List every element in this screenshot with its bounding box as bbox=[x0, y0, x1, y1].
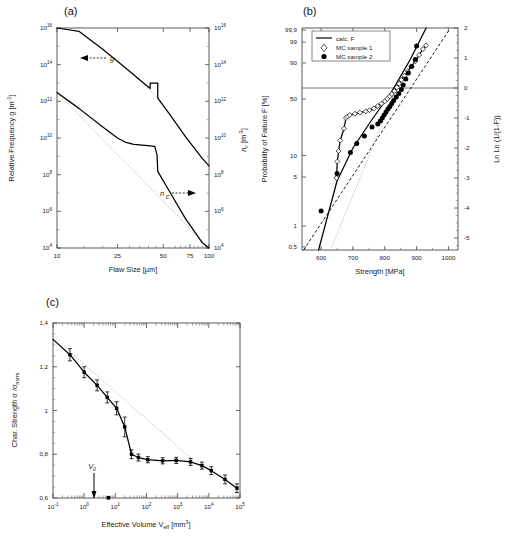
svg-text:101: 101 bbox=[111, 502, 121, 510]
svg-text:-5: -5 bbox=[464, 234, 470, 241]
svg-text:106: 106 bbox=[43, 207, 53, 215]
panel-a: (a) 1016101410121010108106104 1016101410… bbox=[0, 0, 256, 278]
svg-text:99: 99 bbox=[290, 38, 297, 45]
svg-text:90: 90 bbox=[290, 59, 297, 66]
svg-text:1: 1 bbox=[45, 407, 49, 414]
panel-b-ylabel-left: Probability of Failure F [%] bbox=[260, 96, 269, 183]
svg-text:25: 25 bbox=[114, 252, 121, 259]
panel-a-curves bbox=[57, 28, 209, 248]
panel-a-label: (a) bbox=[64, 5, 77, 17]
svg-text:104: 104 bbox=[204, 502, 214, 510]
svg-text:1: 1 bbox=[294, 222, 298, 229]
panel-b-legend: calc. F MC sample 1 MC sample 2 bbox=[312, 31, 390, 61]
svg-text:700: 700 bbox=[348, 254, 359, 261]
panel-c-xlabel: Effective Volume Veff [mm3] bbox=[102, 519, 191, 530]
svg-text:1,2: 1,2 bbox=[39, 363, 48, 370]
svg-text:0: 0 bbox=[464, 84, 468, 91]
svg-text:99,9: 99,9 bbox=[285, 26, 298, 33]
panel-a-annotation-g: g bbox=[80, 54, 115, 63]
svg-text:75: 75 bbox=[187, 252, 194, 259]
svg-text:calc. F: calc. F bbox=[336, 35, 354, 42]
svg-text:1012: 1012 bbox=[214, 97, 226, 105]
svg-text:50: 50 bbox=[290, 95, 297, 102]
svg-text:900: 900 bbox=[411, 254, 422, 261]
svg-text:102: 102 bbox=[142, 502, 152, 510]
panel-c-curves bbox=[53, 339, 239, 499]
panel-c: (c) 1,41,210,80,6 10-1100101102103104105… bbox=[0, 278, 300, 546]
panel-c-annotation-v0: V0 bbox=[88, 462, 96, 499]
svg-text:1014: 1014 bbox=[40, 60, 52, 68]
svg-text:1010: 1010 bbox=[214, 133, 226, 141]
svg-text:103: 103 bbox=[173, 502, 183, 510]
svg-text:10: 10 bbox=[290, 152, 297, 159]
panel-c-label: (c) bbox=[46, 296, 59, 308]
panel-b-left-axis: 99,999905010510,5 bbox=[285, 26, 306, 250]
svg-text:-4: -4 bbox=[464, 204, 470, 211]
panel-a-right-axis: 1016101410121010108106104 bbox=[205, 23, 226, 251]
svg-text:0,6: 0,6 bbox=[39, 494, 48, 501]
panel-c-plot: 1,41,210,80,6 10-1100101102103104105 V0 … bbox=[0, 278, 300, 546]
svg-text:-2: -2 bbox=[464, 144, 470, 151]
filled-circle-icon bbox=[321, 54, 326, 59]
svg-text:600: 600 bbox=[316, 254, 327, 261]
panel-b-x-axis: 6007008009001000 bbox=[305, 28, 456, 261]
svg-text:1012: 1012 bbox=[40, 97, 52, 105]
panel-b-label: (b) bbox=[303, 5, 316, 17]
panel-a-xlabel: Flaw Size [µm] bbox=[109, 265, 158, 274]
svg-text:Char. Strength σ /σnorm: Char. Strength σ /σnorm bbox=[10, 373, 20, 448]
svg-text:1,4: 1,4 bbox=[39, 319, 48, 326]
panel-a-ylabel-right: nc [m-3] bbox=[238, 128, 249, 152]
svg-text:-3: -3 bbox=[464, 174, 470, 181]
svg-text:10-1: 10-1 bbox=[48, 502, 59, 510]
panel-a-ylabel-left: Relative Frequency g [m-1] bbox=[6, 95, 16, 182]
svg-text:Relative Frequency g [m-1]: Relative Frequency g [m-1] bbox=[6, 95, 16, 182]
svg-text:108: 108 bbox=[214, 170, 224, 178]
svg-text:-1: -1 bbox=[464, 114, 470, 121]
svg-text:Strength [MPa]: Strength [MPa] bbox=[355, 267, 404, 276]
svg-text:108: 108 bbox=[43, 170, 53, 178]
svg-text:1016: 1016 bbox=[214, 23, 226, 31]
svg-text:1016: 1016 bbox=[40, 23, 52, 31]
svg-text:104: 104 bbox=[43, 243, 53, 251]
panel-b-right-axis: 210-1-2-3-4-5 bbox=[454, 24, 470, 245]
svg-text:50: 50 bbox=[160, 252, 167, 259]
panel-c-left-axis: 1,41,210,80,6 bbox=[39, 319, 240, 501]
svg-text:0,8: 0,8 bbox=[39, 450, 48, 457]
panel-a-annotation-nc: n c bbox=[160, 189, 196, 201]
svg-text:105: 105 bbox=[235, 502, 245, 510]
svg-text:100: 100 bbox=[79, 502, 89, 510]
svg-text:1014: 1014 bbox=[214, 60, 226, 68]
svg-text:Effective Volume Veff [mm3]: Effective Volume Veff [mm3] bbox=[102, 519, 191, 530]
panel-b: (b) 99,999905010510,5 210-1-2-3-4-5 6007… bbox=[256, 0, 513, 278]
svg-text:nc [m-3]: nc [m-3] bbox=[238, 128, 249, 152]
panel-b-plot: 99,999905010510,5 210-1-2-3-4-5 60070080… bbox=[256, 0, 513, 278]
svg-text:0,5: 0,5 bbox=[288, 243, 297, 250]
svg-text:MC sample 2: MC sample 2 bbox=[336, 53, 373, 60]
panel-b-xlabel: Strength [MPa] bbox=[355, 267, 404, 276]
svg-text:104: 104 bbox=[214, 243, 224, 251]
panel-c-x-axis: 10-1100101102103104105 bbox=[48, 323, 246, 510]
panel-a-left-axis: 1016101410121010108106104 bbox=[40, 23, 61, 251]
svg-text:Flaw Size [µm]: Flaw Size [µm] bbox=[109, 265, 158, 274]
svg-text:100: 100 bbox=[204, 252, 215, 259]
panel-b-ylabel-right: Ln Ln (1/(1-F)) bbox=[492, 115, 501, 163]
svg-text:1010: 1010 bbox=[40, 133, 52, 141]
svg-text:Ln Ln (1/(1-F)): Ln Ln (1/(1-F)) bbox=[492, 115, 501, 163]
panel-a-plot: 1016101410121010108106104 10161014101210… bbox=[0, 0, 256, 278]
svg-text:106: 106 bbox=[214, 207, 224, 215]
svg-text:10: 10 bbox=[54, 252, 61, 259]
svg-text:5: 5 bbox=[294, 173, 298, 180]
panel-a-label-nc: n bbox=[160, 189, 164, 198]
panel-a-label-nc-sub: c bbox=[166, 192, 170, 201]
svg-text:Probability of Failure F [%]: Probability of Failure F [%] bbox=[260, 96, 269, 183]
svg-text:1000: 1000 bbox=[442, 254, 456, 261]
svg-text:800: 800 bbox=[380, 254, 391, 261]
svg-text:MC sample 1: MC sample 1 bbox=[336, 44, 373, 51]
svg-text:1: 1 bbox=[464, 54, 468, 61]
svg-text:V0: V0 bbox=[88, 462, 96, 472]
svg-text:2: 2 bbox=[464, 24, 468, 31]
panel-c-ylabel: Char. Strength σ /σnorm bbox=[10, 373, 20, 448]
